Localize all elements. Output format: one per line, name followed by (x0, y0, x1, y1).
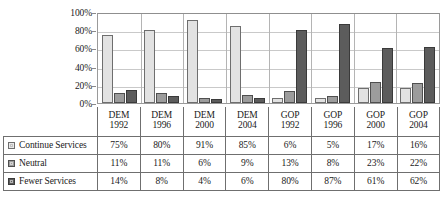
table-cell: 6% (226, 173, 269, 191)
legend-swatch-icon (8, 178, 15, 185)
table-cell: 16% (397, 137, 440, 155)
legend-swatch-icon (8, 142, 15, 149)
table-column-header: GOP1996 (311, 107, 354, 137)
bar (144, 30, 155, 103)
bar (382, 48, 393, 104)
bar (199, 98, 210, 103)
table-cell: 8% (140, 173, 183, 191)
legend-item: Continue Services (4, 137, 98, 155)
bar (168, 96, 179, 103)
chart-page: 0%20%40%60%80%100% DEM1992DEM1996DEM2000… (0, 0, 444, 203)
y-axis-tick-label: 80% (56, 26, 92, 36)
column-header-year: 2004 (398, 121, 440, 131)
column-header-year: 2000 (355, 121, 397, 131)
table-cell: 22% (397, 155, 440, 173)
bar (327, 96, 338, 103)
column-header-year: 1996 (312, 121, 354, 131)
table-cell: 80% (140, 137, 183, 155)
column-header-year: 1992 (269, 121, 311, 131)
bar-group (226, 14, 269, 103)
table-column-header: DEM1992 (98, 107, 141, 137)
table-row: Continue Services75%80%91%85%6%5%17%16% (4, 137, 440, 155)
table-cell: 85% (226, 137, 269, 155)
table-corner-cell (4, 107, 98, 137)
table-cell: 6% (183, 155, 226, 173)
table-cell: 14% (98, 173, 141, 191)
bar (358, 88, 369, 103)
column-header-year: 2000 (184, 121, 226, 131)
legend-item: Fewer Services (4, 173, 98, 191)
table-cell: 23% (354, 155, 397, 173)
plot-area (97, 13, 440, 104)
bar (400, 88, 411, 103)
y-axis-tick-label: 60% (56, 44, 92, 54)
bar (230, 26, 241, 103)
table-cell: 62% (397, 173, 440, 191)
bar (156, 93, 167, 103)
y-axis-tickmark (92, 49, 96, 50)
table-cell: 4% (183, 173, 226, 191)
bar (254, 98, 265, 103)
bar-group (311, 14, 354, 103)
bar (339, 24, 350, 103)
y-axis: 0%20%40%60%80%100% (56, 8, 92, 112)
table-column-header: DEM1996 (140, 107, 183, 137)
legend-label: Neutral (19, 158, 47, 168)
y-axis-tickmark (92, 68, 96, 69)
bar (114, 93, 125, 103)
bar (126, 90, 137, 103)
table-column-header: GOP2000 (354, 107, 397, 137)
table-cell: 11% (140, 155, 183, 173)
bar (296, 30, 307, 103)
y-axis-tickmark (92, 31, 96, 32)
y-axis-tick-label: 20% (56, 81, 92, 91)
y-axis-tickmark (92, 104, 96, 105)
bar (284, 91, 295, 103)
y-axis-tick-label: 40% (56, 63, 92, 73)
table-cell: 11% (98, 155, 141, 173)
bar (424, 47, 435, 103)
bar-group (396, 14, 439, 103)
table-cell: 5% (311, 137, 354, 155)
table-row: Fewer Services14%8%4%6%80%87%61%62% (4, 173, 440, 191)
legend-label: Fewer Services (19, 176, 76, 186)
bar (242, 95, 253, 103)
legend-item: Neutral (4, 155, 98, 173)
bar-groups (98, 14, 439, 103)
y-axis-tick-label: 100% (56, 8, 92, 18)
table-column-header: DEM2004 (226, 107, 269, 137)
table-cell: 80% (269, 173, 312, 191)
table-cell: 9% (226, 155, 269, 173)
table-cell: 87% (311, 173, 354, 191)
table-column-header: GOP2004 (397, 107, 440, 137)
table-cell: 91% (183, 137, 226, 155)
column-header-year: 2004 (226, 121, 268, 131)
bar-group (269, 14, 312, 103)
bar-group (141, 14, 184, 103)
bar (412, 83, 423, 103)
table-cell: 6% (269, 137, 312, 155)
bar (102, 35, 113, 103)
table-header-row: DEM1992DEM1996DEM2000DEM2004GOP1992GOP19… (4, 107, 440, 137)
bar-group (354, 14, 397, 103)
table-column-header: DEM2000 (183, 107, 226, 137)
bar (272, 98, 283, 103)
bar (315, 98, 326, 103)
table-cell: 17% (354, 137, 397, 155)
bar-group (98, 14, 141, 103)
data-table: DEM1992DEM1996DEM2000DEM2004GOP1992GOP19… (3, 107, 440, 191)
table-cell: 61% (354, 173, 397, 191)
column-header-year: 1992 (98, 121, 140, 131)
legend-swatch-icon (8, 160, 15, 167)
y-axis-tickmark (92, 86, 96, 87)
table-column-header: GOP1992 (269, 107, 312, 137)
table-cell: 13% (269, 155, 312, 173)
table-cell: 75% (98, 137, 141, 155)
column-header-year: 1996 (141, 121, 183, 131)
table-row: Neutral11%11%6%9%13%8%23%22% (4, 155, 440, 173)
table-cell: 8% (311, 155, 354, 173)
bar-chart: 0%20%40%60%80%100% (0, 0, 444, 116)
bar-group (183, 14, 226, 103)
legend-label: Continue Services (19, 140, 87, 150)
bar (370, 82, 381, 103)
